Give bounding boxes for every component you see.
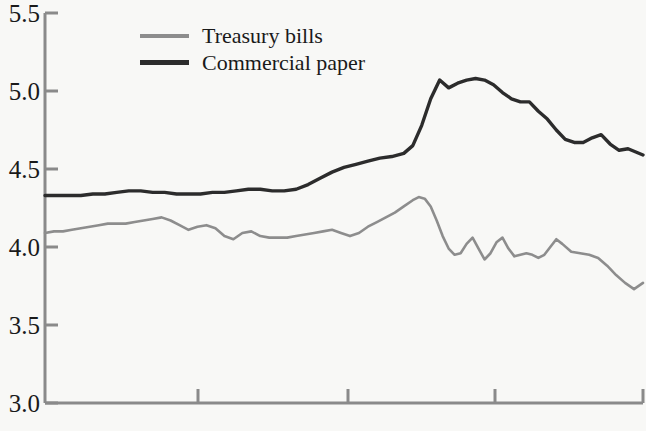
chart-series-group bbox=[45, 79, 643, 290]
y-tick-label: 3.0 bbox=[0, 391, 40, 416]
series-line-commercial-paper bbox=[45, 79, 643, 196]
chart-legend: Treasury bills Commercial paper bbox=[140, 22, 400, 76]
legend-swatch-treasury-bills bbox=[140, 34, 189, 38]
legend-label-treasury-bills: Treasury bills bbox=[202, 25, 323, 47]
series-line-treasury-bills bbox=[45, 197, 643, 289]
chart-figure: 3.03.54.04.55.05.5 Treasury bills Commer… bbox=[0, 0, 646, 431]
y-tick-label: 4.0 bbox=[0, 235, 40, 260]
y-tick-label: 5.0 bbox=[0, 79, 40, 104]
legend-label-commercial-paper: Commercial paper bbox=[202, 52, 365, 74]
x-axis-ticks bbox=[198, 389, 643, 403]
legend-item-treasury-bills: Treasury bills bbox=[140, 22, 400, 49]
legend-item-commercial-paper: Commercial paper bbox=[140, 49, 400, 76]
legend-swatch-commercial-paper bbox=[140, 60, 189, 65]
y-tick-label: 3.5 bbox=[0, 313, 40, 338]
y-tick-label: 4.5 bbox=[0, 157, 40, 182]
y-tick-label: 5.5 bbox=[0, 1, 40, 26]
y-axis-ticks bbox=[45, 13, 58, 403]
